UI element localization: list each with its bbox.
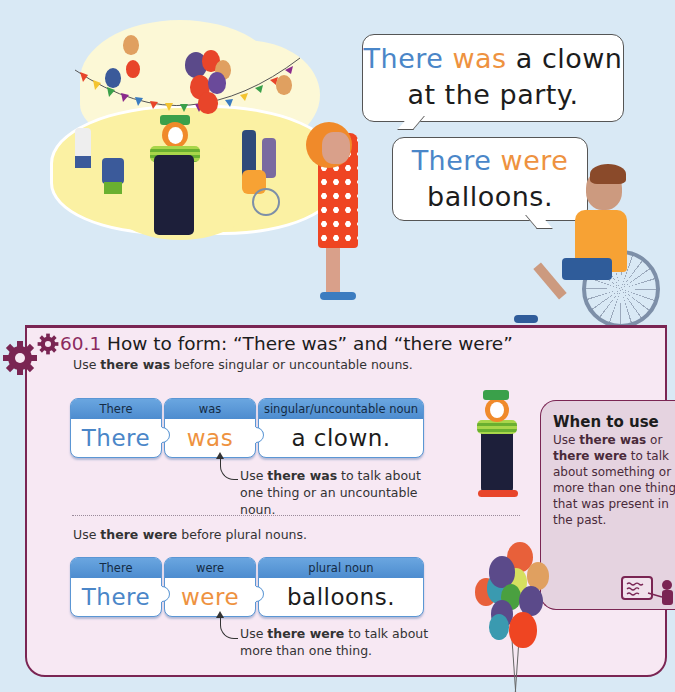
piece-header: was: [165, 399, 255, 419]
balloon-icon: [198, 92, 218, 114]
note-text: Use: [240, 626, 267, 641]
piece-word: was: [165, 419, 255, 457]
speech-bubble-there-were: There were balloons.: [392, 137, 588, 221]
puzzle-piece-subject: There There: [70, 557, 162, 617]
piece-header: There: [71, 558, 161, 578]
balloon-bunch-illustration: [475, 540, 555, 692]
balloon-icon: [509, 612, 537, 648]
girl-face: [322, 132, 350, 164]
piece-word: were: [165, 578, 255, 616]
girl-shoes: [320, 292, 356, 300]
teacher-board-icon: [620, 575, 675, 605]
note-there-was: Use there was to talk about one thing or…: [240, 467, 440, 518]
section-heading: How to form: “There was” and “there were…: [107, 333, 513, 354]
balloon-icon: [126, 60, 140, 78]
puzzle-piece-noun: singular/uncountable noun a clown.: [258, 398, 424, 458]
bubble-subject: There: [412, 145, 492, 176]
piece-header: were: [165, 558, 255, 578]
body-text: or: [646, 433, 662, 447]
clown-shirt: [477, 420, 517, 434]
boy-hair: [590, 164, 626, 184]
party-scene-illustration: [20, 10, 320, 240]
body-text: Use: [553, 433, 579, 447]
note-keyword: there was: [267, 468, 337, 483]
dotted-divider: [72, 515, 520, 516]
piece-word: There: [71, 419, 161, 457]
balloon-icon: [489, 614, 509, 640]
bubble-line2: balloons.: [393, 179, 587, 215]
balloon-icon: [208, 72, 226, 94]
balloon-icon: [276, 75, 292, 95]
puzzle-piece-subject: There There: [70, 398, 162, 458]
when-to-use-title: When to use: [553, 413, 675, 431]
wheelchair-wheel: [252, 188, 280, 216]
piece-word: a clown.: [259, 419, 423, 457]
body-keyword: there were: [553, 449, 627, 463]
intro-keyword: there was: [100, 357, 170, 372]
bubble-object: a clown: [516, 43, 623, 74]
bubble-tail: [525, 215, 553, 229]
intro-keyword: there were: [100, 527, 177, 542]
bubble-subject: There: [364, 43, 444, 74]
note-keyword: there were: [267, 626, 344, 641]
when-to-use-body: Use there was or there were to talk abou…: [553, 432, 675, 528]
puzzle-piece-verb: were were: [164, 557, 256, 617]
gear-icon: [2, 340, 38, 376]
sentence-puzzle-were: There There were were plural noun balloo…: [70, 557, 426, 619]
puzzle-piece-noun: plural noun balloons.: [258, 557, 424, 617]
clown-overalls: [481, 428, 513, 492]
note-text: Use: [240, 468, 267, 483]
piece-header: singular/uncountable noun: [259, 399, 423, 419]
clown-shoes: [478, 490, 518, 497]
bubble-tail: [397, 116, 425, 130]
clown-overalls: [154, 155, 194, 235]
intro-plural: Use there were before plural nouns.: [73, 527, 307, 543]
piece-header: plural noun: [259, 558, 423, 578]
section-number: 60.1: [60, 333, 101, 354]
boy-shorts: [562, 258, 612, 280]
bubble-verb: were: [501, 145, 569, 176]
intro-text: Use: [73, 527, 100, 542]
boy-shoe: [514, 315, 538, 323]
girl-legs: [326, 244, 340, 294]
puzzle-piece-verb: was was: [164, 398, 256, 458]
body-keyword: there was: [579, 433, 646, 447]
child-figure: [104, 182, 122, 194]
bubble-line2: at the party.: [363, 77, 623, 113]
section-title: 60.1 How to form: “There was” and “there…: [60, 332, 513, 356]
child-figure: [75, 128, 91, 158]
piece-word: There: [71, 578, 161, 616]
balloon-icon: [123, 35, 139, 55]
speech-bubble-there-was: There was a clown at the party.: [362, 34, 624, 122]
intro-text: Use: [73, 357, 100, 372]
clown-hat: [483, 390, 509, 400]
balloon-icon: [105, 68, 121, 88]
child-figure: [75, 156, 91, 168]
clown-face: [490, 402, 504, 418]
piece-header: There: [71, 399, 161, 419]
child-figure: [102, 158, 124, 184]
bubble-verb: was: [452, 43, 506, 74]
intro-singular: Use there was before singular or uncount…: [73, 357, 413, 373]
intro-text: before singular or uncountable nouns.: [170, 357, 413, 372]
intro-text: before plural nouns.: [177, 527, 307, 542]
note-there-were: Use there were to talk about more than o…: [240, 625, 440, 659]
sentence-puzzle-was: There There was was singular/uncountable…: [70, 398, 426, 460]
piece-word: balloons.: [259, 578, 423, 616]
clown-face: [168, 127, 183, 144]
gear-icon: [37, 333, 59, 355]
